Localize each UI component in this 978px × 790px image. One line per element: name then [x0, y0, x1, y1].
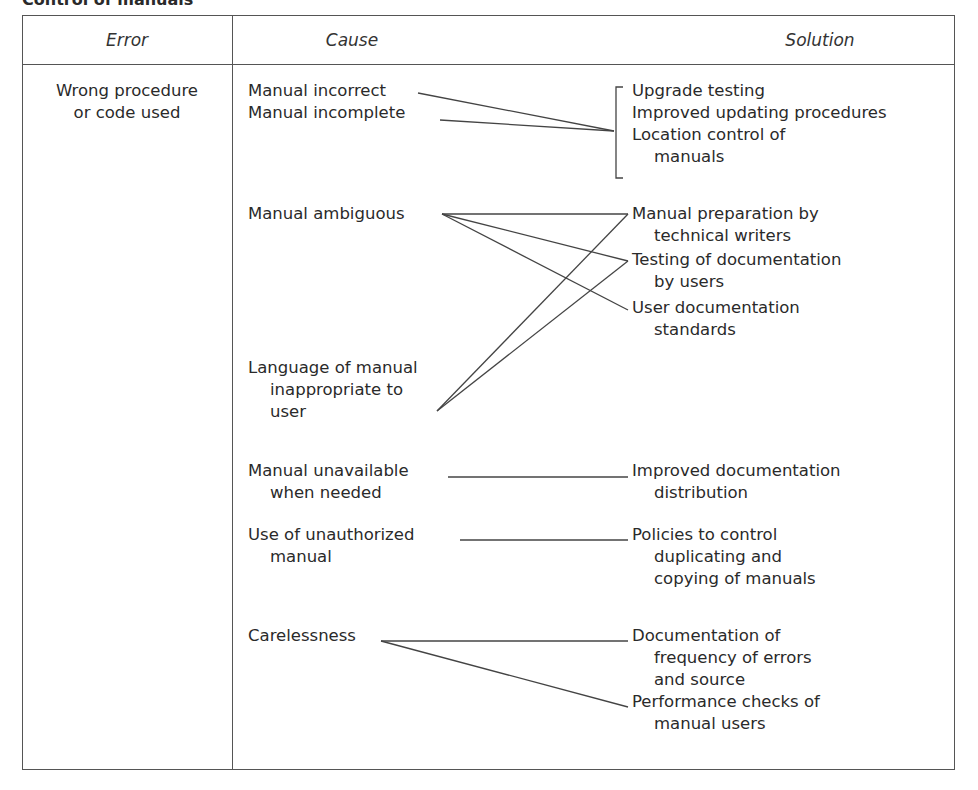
- connector-lines: [0, 0, 978, 790]
- connector-line: [442, 214, 628, 261]
- connector-line: [437, 261, 628, 411]
- connector-line: [437, 214, 628, 411]
- bracket-icon: [616, 87, 623, 178]
- connector-line: [381, 641, 628, 707]
- connector-line: [442, 214, 628, 310]
